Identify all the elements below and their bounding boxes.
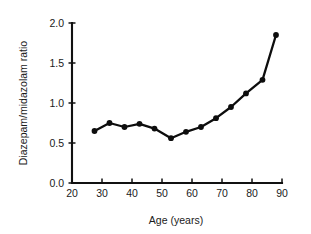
- y-tick-label: 1.0: [49, 97, 64, 109]
- chart-figure: 2030405060708090 0.00.51.01.52.0 Age (ye…: [0, 0, 311, 234]
- data-point: [107, 120, 113, 126]
- y-axis-tick-labels: 0.00.51.01.52.0: [49, 17, 64, 189]
- y-tick-label: 0.0: [49, 177, 64, 189]
- y-axis-title: Diazepam/midazolam ratio: [17, 41, 29, 165]
- x-tick-label: 80: [246, 187, 258, 199]
- data-point: [273, 32, 279, 38]
- data-point: [228, 104, 234, 110]
- data-point: [122, 124, 128, 130]
- data-line: [95, 35, 277, 138]
- data-point: [198, 124, 204, 130]
- x-tick-label: 90: [276, 187, 288, 199]
- x-tick-label: 60: [186, 187, 198, 199]
- data-point: [243, 91, 249, 97]
- data-point: [92, 128, 98, 134]
- x-axis-tick-labels: 2030405060708090: [66, 187, 288, 199]
- data-series-group: [92, 32, 279, 141]
- chart-plot-area: 2030405060708090 0.00.51.01.52.0 Age (ye…: [0, 0, 311, 234]
- data-point: [213, 115, 219, 121]
- x-axis-title: Age (years): [149, 214, 203, 226]
- data-point: [152, 126, 158, 132]
- y-tick-label: 2.0: [49, 17, 64, 29]
- data-point: [183, 129, 189, 135]
- data-point: [137, 121, 143, 127]
- data-point: [260, 77, 266, 83]
- x-tick-label: 70: [216, 187, 228, 199]
- chart-axes: [69, 23, 283, 183]
- y-tick-label: 0.5: [49, 137, 64, 149]
- axis-lines: [72, 23, 282, 183]
- x-tick-label: 50: [156, 187, 168, 199]
- x-tick-label: 30: [96, 187, 108, 199]
- x-tick-label: 40: [126, 187, 138, 199]
- x-tick-label: 20: [66, 187, 78, 199]
- y-tick-label: 1.5: [49, 57, 64, 69]
- data-point: [168, 135, 174, 141]
